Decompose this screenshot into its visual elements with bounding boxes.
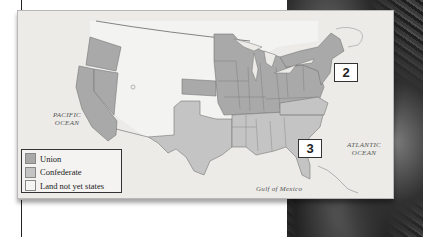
legend-label-confederate: Confederate [40,167,82,177]
pacific-ocean-label: PACIFIC OCEAN [53,111,81,127]
margin-rule-bottom [21,200,22,237]
margin-rule-top [21,0,22,10]
union-swatch [25,153,36,164]
pacific-label-line1: PACIFIC [53,111,81,119]
atlantic-label-line1: ATLANTIC [347,141,381,149]
confederate-swatch [25,167,36,178]
legend-item-union: Union [25,152,118,166]
legend-label-union: Union [40,154,61,164]
atlantic-label-line2: OCEAN [347,149,381,157]
legend-label-territory: Land not yet states [40,181,104,191]
legend-item-confederate: Confederate [25,166,118,180]
gulf-of-mexico-label: Gulf of Mexico [256,185,302,193]
atlantic-ocean-label: ATLANTIC OCEAN [347,141,381,157]
territory-swatch [25,180,36,191]
map-legend: Union Confederate Land not yet states [21,149,122,193]
pacific-label-line2: OCEAN [53,119,81,127]
callout-2: 2 [334,63,358,82]
legend-item-territory: Land not yet states [25,179,118,193]
callout-3: 3 [298,139,322,158]
civil-war-map: PACIFIC OCEAN ATLANTIC OCEAN Gulf of Mex… [17,10,394,199]
